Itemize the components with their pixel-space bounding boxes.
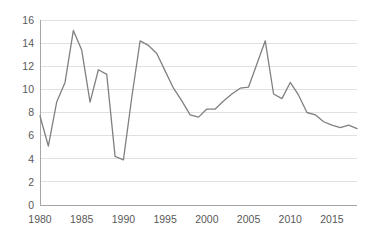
y-tick-label: 4 xyxy=(28,153,34,165)
y-tick-label: 12 xyxy=(22,60,34,72)
x-tick-label: 1995 xyxy=(153,213,177,225)
gridlines xyxy=(40,20,357,205)
y-tick-label: 8 xyxy=(28,106,34,118)
x-tick-label: 1990 xyxy=(112,213,136,225)
x-tick-label: 1985 xyxy=(70,213,94,225)
y-tick-label: 6 xyxy=(28,129,34,141)
y-tick-label: 16 xyxy=(22,14,34,26)
y-tick-label: 2 xyxy=(28,176,34,188)
x-tick-label: 2000 xyxy=(195,213,219,225)
x-tick-label: 2015 xyxy=(320,213,344,225)
line-chart: 0246810121416 19801985199019952000200520… xyxy=(0,0,366,237)
data-series xyxy=(40,30,357,160)
y-tick-label: 10 xyxy=(22,83,34,95)
y-axis-tick-labels: 0246810121416 xyxy=(22,14,34,211)
chart-canvas: 0246810121416 19801985199019952000200520… xyxy=(0,0,366,237)
y-tick-label: 0 xyxy=(28,199,34,211)
x-tick-label: 1980 xyxy=(28,213,52,225)
x-tick-label: 2005 xyxy=(237,213,261,225)
x-tick-label: 2010 xyxy=(279,213,303,225)
x-axis-tick-labels: 19801985199019952000200520102015 xyxy=(28,213,343,225)
y-tick-label: 14 xyxy=(22,37,34,49)
series-line-1 xyxy=(40,30,357,160)
